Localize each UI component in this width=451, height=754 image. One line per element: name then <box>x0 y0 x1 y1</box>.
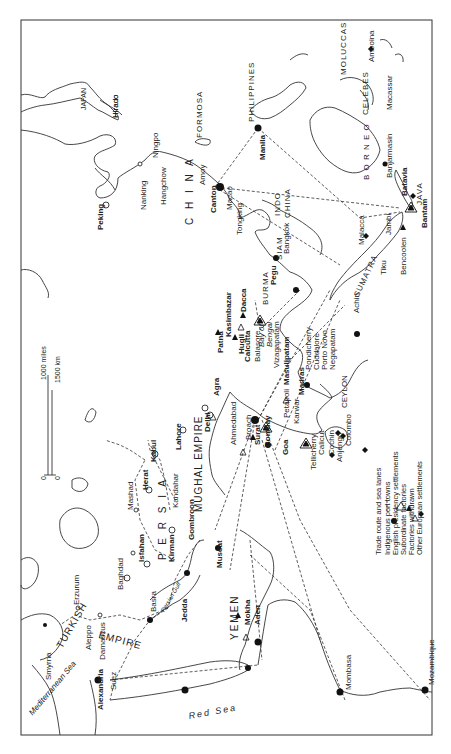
place-damascus: Damascus <box>99 622 107 660</box>
place-amboina: Amboina <box>368 30 376 62</box>
place-macassar: Macassar <box>386 75 394 110</box>
place-smyrna: Smyrna <box>45 652 53 680</box>
place-calicut: Calicut <box>318 431 326 455</box>
place-mombasa: Mombasa <box>345 655 353 690</box>
place-manila: Manila <box>259 135 267 160</box>
place-ningpo: Ningpo <box>152 133 160 158</box>
place-negapatam: Negapatam <box>329 329 337 370</box>
scale-miles-label: 1000 miles <box>40 346 47 380</box>
region-china: C H I N A <box>185 156 195 225</box>
place-kandahar: Kandahar <box>172 473 180 508</box>
place-kabul: Kabul <box>150 440 158 462</box>
place-gombroon: Gombroon <box>188 499 196 540</box>
legend-european: Other European settlements <box>416 461 424 555</box>
place-pegu: Pegu <box>270 265 278 285</box>
place-balasore: Balasore <box>254 330 262 362</box>
place-anjengo: Anjengo <box>336 433 344 462</box>
place-ahmedabad: Ahmedabad <box>230 402 238 445</box>
region-moluccas: MOLUCCAS <box>340 22 348 75</box>
place-batavia: Batavia <box>401 168 409 196</box>
region-ceylon: CEYLON <box>341 375 349 408</box>
scale-km-label: 1500 km <box>54 356 61 383</box>
place-karwar: Karwar <box>293 399 301 424</box>
place-alexandria: Alexandria <box>97 669 105 710</box>
place-masulipatam: Masulipatam <box>283 337 291 385</box>
place-delhi: Delhi <box>204 412 212 432</box>
place-petapoli: Petapoli <box>283 389 291 418</box>
place-mashad: Mashad <box>127 482 135 510</box>
place-suez: Suez <box>110 672 118 690</box>
place-muscat: Muscat <box>216 540 224 568</box>
place-agra: Agra <box>213 378 221 396</box>
place-tongking: Tongking <box>236 203 244 235</box>
place-patna: Patna <box>217 331 225 353</box>
region-formosa: FORMOSA <box>196 91 204 138</box>
scale-zero-a: 0 <box>40 476 47 480</box>
place-basra: Basra <box>150 591 158 612</box>
place-canton: Canton <box>210 185 218 213</box>
place-baghdad: Baghdad <box>117 558 125 590</box>
place-goa: Goa <box>282 439 290 455</box>
place-nanking: Nanking <box>140 181 148 210</box>
place-madras: Madras <box>298 367 306 395</box>
place-broach: Broach <box>245 415 253 440</box>
factories-withdrawn <box>210 324 289 640</box>
region-indochina: CHINA <box>284 188 292 218</box>
place-isfahan: Isfahan <box>138 534 146 562</box>
legend-trade-route: Trade route and sea lanes <box>375 468 383 555</box>
place-amoy: Amoy <box>199 165 207 185</box>
place-dacca: Dacca <box>240 288 248 312</box>
region-philippines: PHILIPPINES <box>248 62 256 122</box>
place-tiku: Tiku <box>380 260 388 275</box>
place-vizagapatam: Vizagapatam <box>273 321 281 368</box>
place-kirman: Kirman <box>168 534 176 562</box>
place-bangkok: Bangkok <box>283 223 291 254</box>
place-mokha: Mokha <box>244 600 252 625</box>
place-bantam: Bantam <box>421 199 429 228</box>
place-lahore: Lahore <box>175 423 183 450</box>
scale-zero-b: 0 <box>54 476 61 480</box>
place-jedda: Jedda <box>181 599 189 622</box>
place-kasimbazar: Kasimbazar <box>225 292 233 337</box>
place-hirado: Hirado <box>112 94 120 118</box>
region-indo: INDO <box>274 192 282 216</box>
place-surat: Surat <box>254 425 262 445</box>
place-peking: Peking <box>97 204 105 230</box>
place-aleppo: Aleppo <box>85 625 93 650</box>
place-mozambique: Mozambique <box>428 639 436 685</box>
place-hangchow: Hangchow <box>160 167 168 205</box>
place-bencoolen: Bencoolen <box>400 237 408 275</box>
place-malacca: Malacca <box>358 215 366 245</box>
place-colombo: Colombo <box>345 414 353 446</box>
place-calcutta: Calcutta <box>244 330 252 362</box>
place-erzurum: Erzurum <box>73 575 81 605</box>
place-macao: Macao <box>226 186 234 210</box>
region-yemen: YEMEN <box>230 594 240 640</box>
place-achin: Achin <box>353 293 361 313</box>
place-bombay: Bombay <box>264 415 272 447</box>
region-borneo: B O R N E O <box>363 123 371 180</box>
region-celebes: CELEBES <box>362 71 370 115</box>
place-jambi: Jambi <box>385 214 393 235</box>
region-japan: JAPAN <box>80 88 87 110</box>
place-banjarmasin: Banjarmasin <box>386 134 394 178</box>
scale-bar <box>44 375 56 475</box>
place-herat: Herat <box>142 470 150 490</box>
place-aden: Aden <box>254 605 262 625</box>
